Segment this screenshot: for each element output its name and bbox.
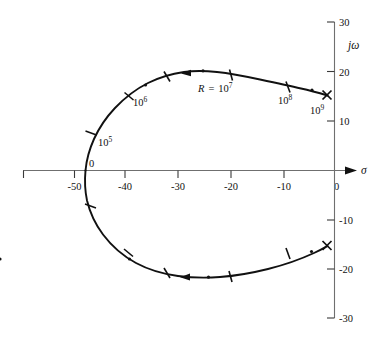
- gain-label-R-symbol: R: [197, 83, 205, 94]
- direction-arrow-lower: [180, 273, 190, 280]
- root-locus-figure: -50 -40 -30 -20 -10 0 σ 30 20 10 -10 -20…: [0, 0, 384, 337]
- locus-dot-lower-3b: [128, 257, 131, 260]
- gain-label-1e9-base: 10: [310, 105, 321, 116]
- gain-label-R-equals: =: [208, 83, 214, 94]
- gain-tick-lower-1e8: [286, 248, 290, 259]
- gain-label-1e8-base: 10: [278, 95, 289, 106]
- gain-label-1e8: 108: [278, 93, 293, 106]
- gain-label-1e6-base: 10: [133, 97, 144, 108]
- sigma-axis-label: σ: [361, 164, 368, 176]
- locus-dot-lower-1: [310, 250, 313, 253]
- gain-label-1e8-exponent: 8: [289, 93, 293, 102]
- jomega-ticklabel--20: -20: [339, 264, 353, 275]
- gain-label-R-1e7: R=107: [197, 81, 233, 94]
- gain-tick-lower-1e5: [85, 204, 96, 208]
- locus-dot-upper-3: [144, 83, 147, 86]
- pole-marker-lower: [323, 241, 332, 250]
- gain-tick-upper-1e8: [286, 82, 290, 93]
- gain-label-1e5-base: 10: [98, 137, 109, 148]
- jomega-ticklabel-20: 20: [339, 67, 350, 78]
- gain-label-1e9-exponent: 9: [321, 103, 325, 112]
- locus-dot-upper-2: [201, 69, 204, 72]
- jomega-ticklabel--10: -10: [339, 215, 353, 226]
- gain-label-1e6: 106: [133, 95, 148, 108]
- direction-arrow-upper: [181, 70, 191, 77]
- gain-label-1e6-exponent: 6: [144, 95, 148, 104]
- gain-label-1e7-exponent: 7: [229, 81, 233, 90]
- gain-label-1e7-base: 10: [218, 83, 229, 94]
- gain-label-1e5: 105: [98, 135, 113, 148]
- sigma-ticklabel--30: -30: [171, 181, 185, 192]
- sigma-ticklabel--40: -40: [118, 181, 132, 192]
- jomega-ticklabel-10: 10: [339, 116, 350, 127]
- gain-label-1e5-exponent: 5: [109, 135, 113, 144]
- gain-annotations-group: 0 105 106 R=107 108 109: [89, 81, 325, 169]
- locus-dot-lower-2: [207, 276, 210, 279]
- gain-tick-upper-1e5: [86, 131, 97, 135]
- root-locus-svg: -50 -40 -30 -20 -10 0 σ 30 20 10 -10 -20…: [0, 0, 384, 337]
- sigma-axis-arrowhead: [345, 167, 357, 175]
- sigma-axis-group: -50 -40 -30 -20 -10 0 σ: [23, 164, 368, 192]
- gain-label-0: 0: [89, 158, 94, 169]
- jomega-ticklabel-30: 30: [339, 17, 350, 28]
- sigma-ticklabel--50: -50: [68, 181, 82, 192]
- locus-dot-lower-3: [0, 257, 2, 260]
- jomega-ticklabel--30: -30: [339, 313, 353, 324]
- locus-upper-arc: [86, 71, 328, 171]
- sigma-ticklabel--10: -10: [277, 181, 291, 192]
- locus-dot-upper-1: [310, 89, 313, 92]
- sigma-ticklabel--20: -20: [224, 181, 238, 192]
- gain-label-1e9: 109: [310, 103, 325, 116]
- jomega-axis-label: jω: [346, 39, 359, 52]
